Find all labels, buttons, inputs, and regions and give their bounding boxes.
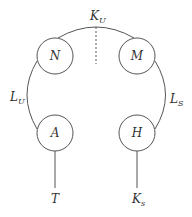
edge-left-arc	[27, 61, 37, 129]
label-l-s: LS	[169, 92, 184, 108]
node-m: M	[119, 38, 155, 74]
label-l-u: LU	[9, 90, 25, 106]
node-m-label: M	[130, 49, 144, 63]
node-h: H	[119, 115, 155, 151]
label-k-u: KU	[89, 9, 106, 25]
diagram: N M A H KU LU LS T Ks	[0, 0, 192, 217]
label-l-s-main: L	[169, 92, 178, 106]
edge-right-arc	[155, 61, 166, 129]
node-h-label: H	[131, 126, 143, 140]
node-a-label: A	[50, 126, 60, 140]
node-n: N	[37, 38, 73, 74]
node-a: A	[37, 115, 73, 151]
label-t-main: T	[51, 192, 60, 206]
node-n-label: N	[49, 49, 61, 63]
label-k-u-sub: U	[99, 16, 106, 25]
label-k-s-sub: s	[141, 199, 145, 208]
label-l-u-sub: U	[18, 97, 25, 106]
label-k-s: Ks	[131, 192, 145, 208]
label-t: T	[51, 192, 60, 206]
label-l-u-main: L	[9, 90, 18, 104]
label-l-s-sub: S	[178, 99, 184, 108]
